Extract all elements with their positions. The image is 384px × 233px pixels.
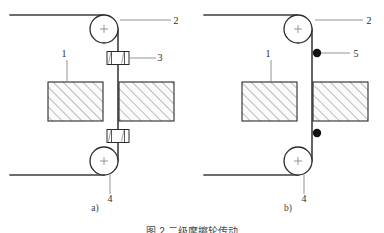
top-pulley bbox=[90, 15, 118, 43]
mechanism-diagram: 1 2 3 4 a) bbox=[0, 0, 384, 233]
panel-b: 1 2 5 4 b) bbox=[204, 15, 372, 214]
bottom-pulley bbox=[90, 147, 118, 175]
callout-label-3: 3 bbox=[158, 52, 163, 63]
node-lower-dot bbox=[313, 129, 321, 137]
left-block bbox=[242, 82, 297, 121]
node-upper-dot bbox=[313, 49, 321, 57]
panel-label-b: b) bbox=[284, 203, 292, 214]
figure-root: 1 2 3 4 a) bbox=[0, 0, 384, 233]
left-block bbox=[48, 82, 103, 121]
callout-label-1: 1 bbox=[266, 48, 271, 59]
callout-label-4: 4 bbox=[108, 193, 113, 204]
figure-caption: 图 2 二级摩擦轮传动 bbox=[0, 226, 384, 233]
bottom-pulley bbox=[284, 147, 312, 175]
callout-label-2: 2 bbox=[174, 15, 179, 26]
callout-label-4: 4 bbox=[302, 193, 307, 204]
callout-label-2: 2 bbox=[367, 15, 372, 26]
clamp-lower bbox=[107, 130, 129, 143]
panel-label-a: a) bbox=[91, 203, 98, 214]
panel-a: 1 2 3 4 a) bbox=[10, 15, 179, 214]
right-block bbox=[313, 82, 368, 121]
clamp-upper bbox=[107, 52, 129, 65]
figure-caption-band: 图 2 二级摩擦轮传动 bbox=[0, 226, 384, 233]
callout-label-5: 5 bbox=[354, 48, 359, 59]
top-pulley bbox=[284, 15, 312, 43]
right-block bbox=[119, 82, 174, 121]
callout-label-1: 1 bbox=[62, 48, 67, 59]
